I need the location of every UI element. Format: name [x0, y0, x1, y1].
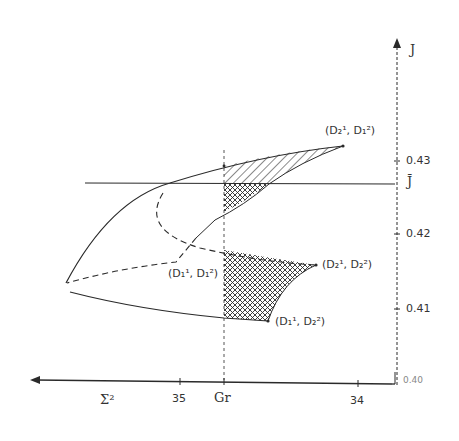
point-top-right [341, 144, 344, 147]
point-label-top-right: (D₂¹, D₁²) [325, 124, 375, 137]
vertical-axis [393, 38, 401, 385]
horizontal-axis [30, 372, 395, 387]
crosshatched-region-upper [224, 184, 269, 212]
point-gr-crossing [223, 165, 226, 168]
hatched-region [224, 146, 343, 184]
tick-label-35: 35 [172, 392, 186, 405]
tick-label-041: 0.41 [406, 302, 431, 315]
diagram-canvas: J 0.43 J̄ 0.42 0.41 0.40 Σ² 35 Gr 34 (D₂… [0, 0, 459, 441]
gr-label: Gr [214, 390, 231, 405]
tick-label-042: 0.42 [406, 227, 431, 240]
point-label-bottom-right: (D₁¹, D₂²) [275, 315, 325, 328]
diagram-svg [0, 0, 459, 441]
arrow-up-icon [393, 38, 401, 48]
point-label-middle-left: (D₁¹, D₁²) [168, 267, 218, 280]
point-middle-right [314, 263, 317, 266]
point-label-middle-right: (D₂¹, D₂²) [322, 258, 372, 271]
upper-boundary-curve [66, 146, 343, 283]
j-axis-label: J [410, 42, 415, 57]
tick-label-040: 0.40 [403, 375, 423, 385]
tick-label-34: 34 [350, 394, 364, 407]
sigma2-label: Σ² [100, 392, 114, 407]
tick-label-043: 0.43 [406, 154, 431, 167]
point-bottom-right [266, 319, 269, 322]
jbar-label: J̄ [407, 174, 412, 189]
arrow-left-icon [30, 376, 40, 384]
